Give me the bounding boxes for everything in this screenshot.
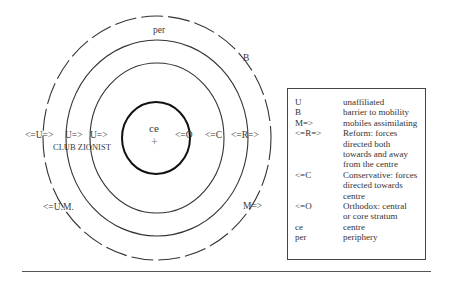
legend-desc: Orthodox: central or core stratum [343, 201, 425, 222]
unaffiliated-mobiles-label: <=U.M. [43, 203, 74, 213]
legend-item: <=C Conservative: forces directed toward… [295, 170, 425, 201]
legend-desc: periphery [343, 232, 425, 242]
legend-key: <=R=> [295, 128, 343, 170]
centre-label: ce [149, 123, 159, 134]
legend-desc-line: directed towards [343, 180, 403, 190]
legend-key: <=C [295, 170, 343, 201]
legend-desc-line: from the centre [343, 159, 398, 169]
legend-desc: centre [343, 222, 425, 232]
legend-key: B [295, 107, 343, 117]
legend-desc: unaffiliated [343, 97, 425, 107]
legend-item: <=O Orthodox: central or core stratum [295, 201, 425, 222]
legend-desc-line: centre [343, 191, 365, 201]
legend-desc: mobiles assimilating [343, 118, 425, 128]
mobiles-arrow-label: M=> [243, 202, 262, 212]
legend-desc: Conservative: forces directed towards ce… [343, 170, 425, 201]
periphery-label: per [153, 26, 165, 36]
legend-item: M=> mobiles assimilating [295, 118, 425, 128]
legend-item: ce centre [295, 222, 425, 232]
legend-desc-line: directed both [343, 139, 390, 149]
legend-item: U unaffiliated [295, 97, 425, 107]
legend-desc: Reform: forces directed both towards and… [343, 128, 425, 170]
conservative-arrow-label: <=C [205, 131, 222, 141]
legend-key: <=O [295, 201, 343, 222]
legend-item: per periphery [295, 232, 425, 242]
legend-desc-line: Conservative: forces [343, 170, 417, 180]
barrier-label: B [243, 54, 249, 64]
reform-arrow-label: <=R=> [231, 131, 259, 141]
legend-key: M=> [295, 118, 343, 128]
legend-desc-line: towards and away [343, 149, 408, 159]
legend-key: per [295, 232, 343, 242]
legend-item: <=R=> Reform: forces directed both towar… [295, 128, 425, 170]
legend-desc-line: Orthodox: central [343, 201, 407, 211]
legend-box: U unaffiliated B barrier to mobility M=>… [287, 88, 426, 260]
unaffiliated-outer-label: <=U=> [25, 131, 53, 141]
unaffiliated-mid-label: U=> [65, 131, 83, 141]
club-zionist-label: CLUB ZIONIST [53, 143, 111, 152]
legend-desc: barrier to mobility [343, 107, 425, 117]
legend-desc-line: or core stratum [343, 211, 397, 221]
legend-item: B barrier to mobility [295, 107, 425, 117]
centre-mark: + [151, 136, 158, 148]
legend-desc-line: Reform: forces [343, 128, 397, 138]
orthodox-arrow-label: <=O [175, 131, 193, 141]
unaffiliated-inner-label: U=> [90, 131, 108, 141]
legend-key: ce [295, 222, 343, 232]
legend-key: U [295, 97, 343, 107]
bottom-rule [22, 271, 431, 272]
